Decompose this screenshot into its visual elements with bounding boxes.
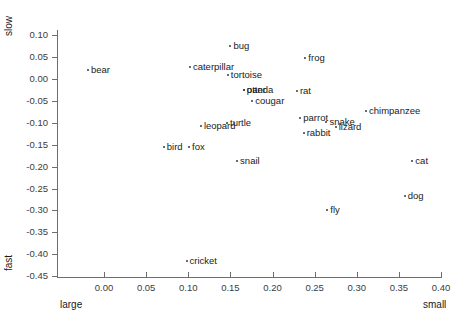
x-tick-label: 0.05 [123, 283, 169, 293]
data-point [365, 110, 367, 112]
y-tick-mark [52, 189, 57, 190]
y-tick-label-wrap: 0.05 [0, 52, 48, 62]
x-tick-mark [188, 272, 189, 277]
data-point-label: bird [167, 142, 183, 152]
x-axis-right-label: small [423, 300, 446, 310]
y-tick-label: -0.15 [6, 140, 48, 150]
y-axis-line [57, 30, 58, 278]
y-tick-label-wrap: -0.35 [0, 227, 48, 237]
data-point-label: rabbit [307, 128, 331, 138]
data-point-label: caterpillar [193, 62, 234, 72]
y-tick-label-wrap: -0.20 [0, 162, 48, 172]
y-tick-label: -0.25 [6, 184, 48, 194]
y-tick-label-wrap: -0.45 [0, 271, 48, 281]
y-tick-mark [52, 79, 57, 80]
data-point [299, 117, 301, 119]
x-axis-left-label: large [60, 300, 82, 310]
y-tick-label: -0.20 [6, 162, 48, 172]
data-point [229, 45, 231, 47]
y-tick-mark [52, 57, 57, 58]
x-tick-label: 0.30 [334, 283, 380, 293]
x-tick-label: 0.00 [81, 283, 127, 293]
data-point [404, 195, 406, 197]
x-tick-mark [315, 272, 316, 277]
data-point [303, 132, 305, 134]
x-tick-label: 0.15 [207, 283, 253, 293]
y-tick-label: 0.05 [6, 52, 48, 62]
y-tick-label: -0.10 [6, 118, 48, 128]
data-point [335, 126, 337, 128]
data-point-label: cat [415, 157, 428, 167]
data-point [251, 100, 253, 102]
data-point-label: leopard [204, 122, 236, 132]
scatter-plot: 0.100.050.00-0.05-0.10-0.15-0.20-0.25-0.… [0, 0, 464, 328]
y-tick-mark [52, 254, 57, 255]
data-point-label: bug [233, 41, 249, 51]
y-tick-mark [52, 145, 57, 146]
x-axis-line [57, 277, 442, 278]
data-point-label: dog [408, 191, 424, 201]
y-tick-label-wrap: -0.10 [0, 118, 48, 128]
y-tick-label-wrap: -0.05 [0, 96, 48, 106]
y-tick-mark [52, 210, 57, 211]
x-tick-mark [273, 272, 274, 277]
x-tick-label: 0.10 [165, 283, 211, 293]
y-tick-label-wrap: -0.15 [0, 140, 48, 150]
data-point [186, 260, 188, 262]
data-point [87, 69, 89, 71]
y-tick-mark [52, 232, 57, 233]
x-tick-label: 0.35 [376, 283, 422, 293]
y-axis-bottom-label: fast [4, 255, 14, 271]
x-tick-label: 0.40 [418, 283, 464, 293]
data-point-label: tortoise [231, 70, 262, 80]
x-tick-label: 0.25 [292, 283, 338, 293]
x-tick-label: 0.20 [250, 283, 296, 293]
y-tick-mark [52, 123, 57, 124]
data-point-label: snail [240, 157, 260, 167]
x-tick-mark [441, 272, 442, 277]
data-point-label: cricket [190, 257, 217, 267]
data-point [188, 146, 190, 148]
data-point-label: parrot [303, 113, 328, 123]
data-point-label: fox [192, 142, 205, 152]
y-tick-label: -0.05 [6, 96, 48, 106]
x-tick-mark [146, 272, 147, 277]
data-point-label: frog [308, 53, 324, 63]
y-tick-label: -0.35 [6, 227, 48, 237]
y-tick-label: -0.30 [6, 205, 48, 215]
y-tick-label-wrap: -0.30 [0, 205, 48, 215]
data-point-label: rat [300, 86, 311, 96]
data-point [236, 160, 238, 162]
data-point [243, 89, 245, 91]
data-point [304, 57, 306, 59]
y-tick-label: 0.00 [6, 74, 48, 84]
y-axis-top-label: slow [4, 16, 14, 36]
y-tick-label-wrap: 0.00 [0, 74, 48, 84]
x-tick-mark [399, 272, 400, 277]
y-tick-label-wrap: -0.25 [0, 184, 48, 194]
y-tick-mark [52, 167, 57, 168]
data-point-label: fly [330, 205, 340, 215]
data-point-label: bear [91, 65, 110, 75]
data-point [163, 146, 165, 148]
data-point [296, 90, 298, 92]
x-tick-mark [104, 272, 105, 277]
data-point [227, 74, 229, 76]
x-tick-mark [230, 272, 231, 277]
y-tick-mark [52, 35, 57, 36]
data-point-label: cougar [255, 96, 284, 106]
data-point [189, 66, 191, 68]
data-point-label: lizard [339, 122, 362, 132]
y-tick-label: -0.45 [6, 271, 48, 281]
data-point [200, 125, 202, 127]
x-tick-mark [357, 272, 358, 277]
data-point-label: chimpanzee [369, 106, 420, 116]
y-tick-mark [52, 276, 57, 277]
y-tick-mark [52, 101, 57, 102]
data-point [326, 209, 328, 211]
data-point-label: otter [247, 85, 266, 95]
data-point [411, 160, 413, 162]
